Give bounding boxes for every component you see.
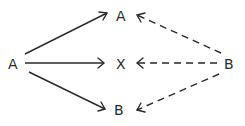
diagram-canvas: A A X B B [0,0,245,126]
edge-a-to-top-a [25,12,107,54]
edge-a-to-x [25,58,104,68]
node-target-x: X [116,56,126,72]
node-source-a: A [8,56,18,72]
node-source-b: B [224,56,234,72]
node-target-b: B [114,102,124,118]
edge-b-to-bottom-b [137,74,219,112]
edge-a-to-bottom-b [29,72,105,111]
edge-b-to-x [137,58,217,68]
node-target-a: A [116,8,126,24]
edge-b-to-top-a [137,13,221,53]
